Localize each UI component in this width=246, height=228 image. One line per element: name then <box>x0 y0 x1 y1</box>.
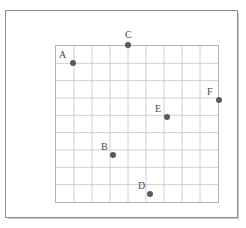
point-label-f: F <box>207 87 213 97</box>
figure-root: ABCDEF <box>0 0 246 228</box>
point-label-d: D <box>138 181 145 191</box>
coordinate-grid <box>55 45 219 203</box>
data-point-a <box>70 60 76 66</box>
data-point-b <box>110 152 116 158</box>
data-point-c <box>125 42 131 48</box>
page-border-shadow-bottom <box>8 218 239 219</box>
grid-lines <box>56 46 218 202</box>
point-label-e: E <box>155 104 161 114</box>
data-point-d <box>147 191 153 197</box>
data-point-e <box>164 114 170 120</box>
data-point-f <box>216 97 222 103</box>
page-border-shadow-right <box>238 13 239 220</box>
point-label-a: A <box>59 50 66 60</box>
point-label-b: B <box>101 142 108 152</box>
point-label-c: C <box>125 30 132 40</box>
